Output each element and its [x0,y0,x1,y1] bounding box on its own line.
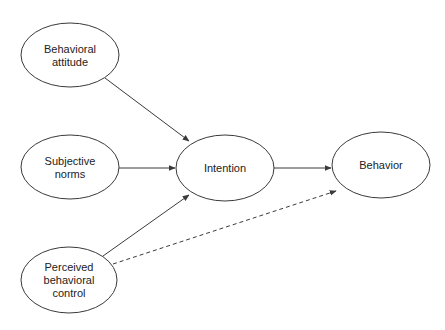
node-behavior: Behavior [332,132,430,198]
node-control: Perceivedbehavioralcontrol [21,247,117,313]
node-label-line: Intention [204,162,246,174]
arrow-line [105,78,189,141]
node-label-line: Behavioral [44,43,96,55]
edge-attitude-to-intention [105,78,189,141]
node-label-line: Subjective [45,155,96,167]
node-label-line: attitude [52,56,88,68]
arrow-line [103,195,189,256]
node-label-line: control [52,287,85,299]
node-label-line: norms [55,168,86,180]
node-label-line: Behavior [359,159,403,171]
node-label-line: Perceived [45,261,94,273]
edge-control-to-intention [103,195,189,256]
tpb-diagram: BehavioralattitudeSubjectivenormsPerceiv… [0,0,445,330]
node-intention: Intention [176,135,274,201]
node-norms: Subjectivenorms [21,135,119,199]
nodes-layer: BehavioralattitudeSubjectivenormsPerceiv… [21,23,430,313]
node-label-line: behavioral [44,274,95,286]
arrow-line-dashed [113,191,336,264]
edge-control-to-behavior [113,191,336,264]
node-attitude: Behavioralattitude [21,23,119,87]
